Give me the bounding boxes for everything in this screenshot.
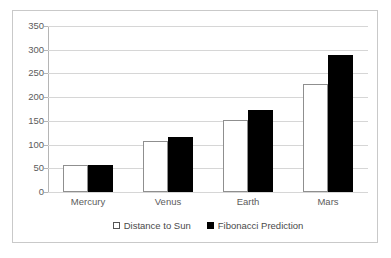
bar-mars-fibonacci-prediction[interactable] (328, 55, 353, 192)
chart-legend: Distance to SunFibonacci Prediction (48, 220, 368, 231)
bar-mercury-distance-to-sun[interactable] (63, 165, 88, 193)
legend-label: Distance to Sun (124, 220, 191, 231)
y-axis-tick-label: 250 (28, 68, 44, 78)
bar-pair (208, 26, 288, 192)
y-axis-tick-mark (44, 26, 48, 27)
x-axis-category-label: Earth (208, 196, 288, 207)
legend-entry[interactable]: Distance to Sun (113, 220, 191, 231)
gridline (48, 192, 368, 193)
bar-mars-distance-to-sun[interactable] (303, 84, 328, 192)
y-axis-tick-mark (44, 73, 48, 74)
bar-pair (128, 26, 208, 192)
y-axis-tick-label: 100 (28, 140, 44, 150)
y-axis-tick-mark (44, 145, 48, 146)
bar-venus-fibonacci-prediction[interactable] (168, 137, 193, 192)
category-group: Earth (208, 26, 288, 192)
category-group: Mars (288, 26, 368, 192)
y-axis-tick-mark (44, 97, 48, 98)
x-axis-category-label: Mercury (48, 196, 128, 207)
filled-square-marker (207, 222, 214, 229)
bar-pair (48, 26, 128, 192)
bar-earth-distance-to-sun[interactable] (223, 120, 248, 192)
legend-label: Fibonacci Prediction (218, 220, 304, 231)
y-axis-tick-label: 50 (33, 163, 44, 173)
category-group: Mercury (48, 26, 128, 192)
y-axis-tick-mark (44, 121, 48, 122)
x-axis-category-label: Venus (128, 196, 208, 207)
bar-earth-fibonacci-prediction[interactable] (248, 110, 273, 192)
y-axis-tick-labels: 050100150200250300350 (14, 0, 44, 258)
y-axis-tick-label: 200 (28, 92, 44, 102)
bar-pair (288, 26, 368, 192)
y-axis-tick-mark (44, 192, 48, 193)
y-axis-tick-label: 300 (28, 45, 44, 55)
y-axis-tick-label: 350 (28, 21, 44, 31)
open-square-marker (113, 222, 120, 229)
y-axis-tick-mark (44, 50, 48, 51)
bar-chart-figure: 050100150200250300350 MercuryVenusEarthM… (0, 0, 391, 258)
y-axis-tick-label: 150 (28, 116, 44, 126)
bar-mercury-fibonacci-prediction[interactable] (88, 165, 113, 193)
x-axis-category-label: Mars (288, 196, 368, 207)
y-axis-tick-mark (44, 168, 48, 169)
bar-venus-distance-to-sun[interactable] (143, 141, 168, 192)
category-group: Venus (128, 26, 208, 192)
plot-area: MercuryVenusEarthMars (48, 26, 368, 192)
legend-entry[interactable]: Fibonacci Prediction (207, 220, 304, 231)
